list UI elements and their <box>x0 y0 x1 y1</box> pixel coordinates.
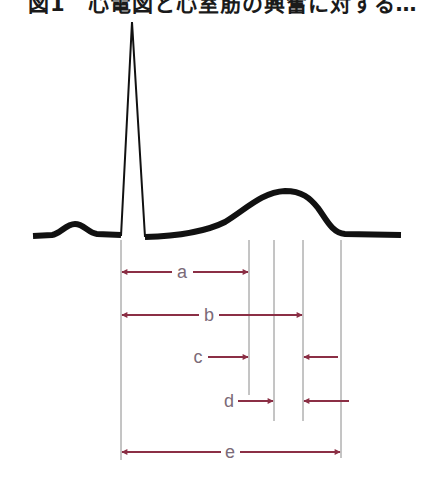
ecg-waveform <box>33 22 401 237</box>
interval-labels: a b c d e <box>177 262 235 462</box>
label-c: c <box>194 347 203 367</box>
ecg-diagram: a b c d e <box>0 0 427 491</box>
label-a: a <box>177 262 188 282</box>
label-d: d <box>224 391 234 411</box>
qrs-complex <box>121 22 145 237</box>
t-wave <box>145 191 401 237</box>
label-b: b <box>204 305 214 325</box>
interval-arrows <box>122 272 349 452</box>
label-e: e <box>225 442 235 462</box>
p-wave <box>33 224 121 236</box>
